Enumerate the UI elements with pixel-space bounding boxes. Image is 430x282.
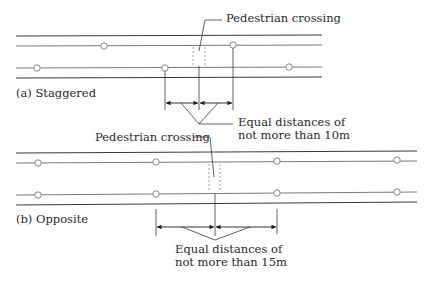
diagram-drawing (0, 0, 430, 282)
road-edge-top (16, 35, 322, 36)
caption-opposite: (b) Opposite (16, 213, 88, 226)
bus-stop-icon (394, 189, 400, 195)
road-edge-bottom (16, 77, 322, 78)
bus-stop-icon (162, 65, 168, 71)
distance-label-a-line2: not more than 10m (238, 129, 350, 142)
crossing-label-b: Pedestrian crossing (95, 131, 210, 144)
bus-stop-icon (274, 158, 280, 164)
bus-stop-icon (286, 64, 292, 70)
distance-leader-b (182, 227, 250, 240)
distance-label-b-line2: not more than 15m (175, 256, 287, 269)
lane-line-lower (16, 67, 322, 68)
bus-stop-icon (274, 190, 280, 196)
bus-stop-icon (35, 192, 41, 198)
bus-stop-icon (230, 42, 236, 48)
panel-b-road (16, 151, 417, 205)
lane-line-upper (16, 45, 322, 46)
caption-staggered: (a) Staggered (16, 87, 96, 100)
panel-a-extension-lines (165, 48, 233, 110)
bus-stop-crossing-diagram: Pedestrian crossing (a) Staggered Equal … (0, 0, 430, 282)
panel-a-road (16, 35, 322, 78)
distance-leader-a (181, 103, 218, 124)
bus-stop-icon (153, 159, 159, 165)
bus-stop-icon (101, 43, 107, 49)
panel-b-extension-lines (156, 194, 277, 236)
bus-stop-icon (35, 160, 41, 166)
bus-stop-icon (153, 191, 159, 197)
crossing-label-a: Pedestrian crossing (226, 12, 341, 25)
bus-stop-icon (394, 157, 400, 163)
bus-stop-icon (34, 65, 40, 71)
panel-b-crossing (209, 164, 220, 192)
